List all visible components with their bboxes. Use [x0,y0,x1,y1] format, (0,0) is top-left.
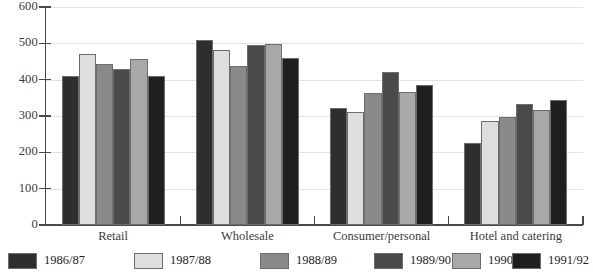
bar [516,104,533,225]
bar [113,69,130,225]
bar [230,66,247,225]
legend-label: 1987/88 [170,254,211,267]
bar [330,108,347,225]
bar [79,54,96,225]
group-separator-tick [314,216,315,225]
legend-label: 1986/87 [44,254,85,267]
legend-item-1989-90[interactable]: 1989/90 [374,252,451,269]
bar [464,143,481,225]
bar [499,117,516,225]
group-separator-tick [180,216,181,225]
group-separator-tick [448,216,449,225]
y-axis-tick-label: 200 [0,145,38,157]
legend-swatch-icon [260,253,289,269]
legend-swatch-icon [452,253,481,269]
group-separator-tick [582,216,583,225]
y-axis-tick-label: 500 [0,36,38,48]
legend-label: 1989/90 [410,254,451,267]
bar [62,76,79,225]
bar [247,45,264,225]
bar [196,40,213,225]
bar [416,85,433,225]
y-axis-tick-label: 100 [0,182,38,194]
bar [364,93,381,225]
bar [213,50,230,225]
bar [481,121,498,225]
bar [347,112,364,225]
legend-swatch-icon [512,253,541,269]
legend-swatch-icon [134,253,163,269]
legend-item-1986-87[interactable]: 1986/87 [8,252,85,269]
bar [282,58,299,225]
y-axis-labels: 6005004003002001000 [0,0,38,232]
legend-swatch-icon [374,253,403,269]
bar [533,110,550,225]
legend-swatch-icon [8,253,37,269]
legend-item-1991-92[interactable]: 1991/92 [512,252,589,269]
legend-label: 1988/89 [296,254,337,267]
bar [399,92,416,225]
legend-label: 1991/92 [548,254,589,267]
legend-item-1987-88[interactable]: 1987/88 [134,252,211,269]
y-axis-tick-label: 600 [0,0,38,12]
y-axis-tick-label: 400 [0,73,38,85]
bar [382,72,399,225]
chart-legend: 1986/871987/881988/891989/901990/911991/… [6,252,584,272]
category-label-hotel-and-catering: Hotel and catering [426,229,593,243]
bar [148,76,165,225]
y-axis-tick-label: 300 [0,109,38,121]
legend-item-1988-89[interactable]: 1988/89 [260,252,337,269]
bar [550,100,567,225]
plot-area [46,0,583,225]
bar [265,44,282,225]
bar [96,64,113,225]
bar [130,59,147,225]
